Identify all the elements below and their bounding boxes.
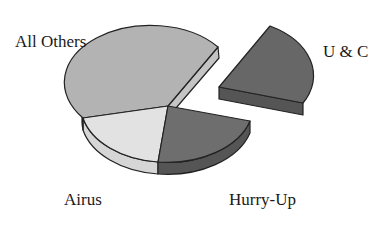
slice-hurry-up xyxy=(158,106,250,162)
label-hurry-up: Hurry-Up xyxy=(229,191,296,208)
slice-uc-exploded xyxy=(219,26,314,115)
label-airus: Airus xyxy=(64,191,102,208)
label-uc: U & C xyxy=(323,43,368,60)
label-all-others: All Others xyxy=(15,33,86,50)
slice-all-others xyxy=(64,25,218,118)
